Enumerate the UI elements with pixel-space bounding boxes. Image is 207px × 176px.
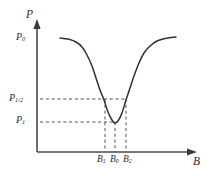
- x-tick-label-b0: B0: [110, 155, 119, 165]
- figure-container: P B P0 P1/2 P1 B1 B0 B2: [0, 0, 207, 176]
- y-tick-sub-p-half: 1/2: [15, 96, 23, 103]
- x-tick-label-b2: B2: [123, 155, 132, 165]
- guide-lines-group: [40, 99, 126, 152]
- x-tick-sub-b0: 0: [116, 158, 119, 164]
- x-tick-label-b1: B1: [97, 155, 106, 165]
- plot-canvas: [0, 0, 207, 176]
- x-tick-sub-b1: 1: [103, 158, 106, 164]
- y-tick-sub-p1: 1: [22, 118, 25, 125]
- y-tick-label-p0: P0: [16, 32, 25, 43]
- x-axis-label: B: [193, 156, 200, 168]
- y-axis-arrowhead: [33, 19, 40, 29]
- resonance-curve: [60, 37, 176, 123]
- y-tick-label-p1: P1: [16, 115, 25, 126]
- y-axis-label: P: [26, 9, 33, 21]
- x-tick-sub-b2: 2: [129, 158, 132, 164]
- y-tick-sub-p0: 0: [22, 35, 25, 42]
- y-tick-label-p-half: P1/2: [9, 93, 23, 104]
- y-axis-group: [33, 19, 40, 152]
